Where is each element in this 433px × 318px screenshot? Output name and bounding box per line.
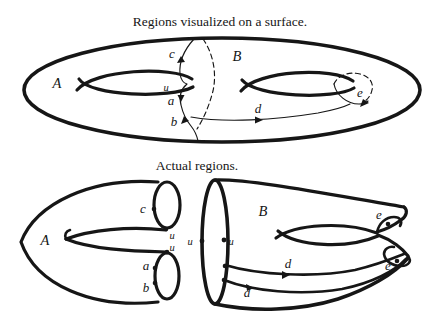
curve-c-arrowhead (177, 56, 185, 63)
loop-e-arrowhead (360, 99, 369, 107)
label-curve-c: c (169, 46, 175, 61)
label-u-left: u (187, 236, 192, 247)
label-region-a: A (52, 75, 62, 91)
dot-u-c-circle (164, 227, 169, 232)
curve-d (191, 104, 350, 120)
piece-a-circle-c (154, 182, 180, 228)
label-piece-a: A (40, 232, 50, 248)
dot-d-lower-start (222, 278, 227, 283)
surface-figure: Regions visualized on a surface. A B c u… (24, 14, 420, 142)
actual-regions-figure: Actual regions. A c u u a b (21, 158, 410, 309)
label-curve-a: a (168, 93, 175, 108)
label-e-top: e (376, 207, 382, 222)
figure-page: Regions visualized on a surface. A B c u… (0, 0, 433, 318)
piece-b-top-edge (215, 180, 404, 207)
piece-b: B u u e e d d (187, 180, 409, 309)
left-handle-lower-arc (79, 79, 193, 94)
dot-u-right (222, 238, 227, 243)
piece-a-circle-ab (155, 253, 179, 299)
topology-diagram: Regions visualized on a surface. A B c u… (0, 0, 433, 318)
label-u-top: u (169, 230, 174, 241)
piece-b-hole-lower-arc (278, 231, 378, 245)
label-arc-a: a (143, 258, 150, 273)
piece-a: A c u u a b (21, 181, 180, 303)
label-d-upper: d (285, 256, 292, 271)
dot-e-bottom (395, 259, 400, 264)
piece-b-bottom-edge (215, 258, 408, 309)
label-u-right: u (228, 236, 233, 247)
piece-b-curve-d-upper (225, 254, 404, 275)
loop-cab-back-dashed (197, 39, 215, 129)
label-e-bottom: e (385, 258, 391, 273)
label-region-b: B (233, 48, 242, 64)
curve-b-arrowhead (181, 116, 189, 124)
dot-a-arc (153, 266, 158, 271)
dot-e-top (386, 222, 391, 227)
curve-a-arrowhead (178, 95, 185, 102)
piece-b-hole-upper-arc (276, 226, 377, 238)
label-curve-e: e (357, 85, 363, 100)
label-curve-b: b (171, 114, 178, 129)
dot-d-upper-start (223, 264, 228, 269)
label-d-lower: d (244, 285, 251, 300)
label-piece-b: B (259, 203, 268, 219)
label-u-bottom: u (169, 242, 174, 253)
dot-c-arc (152, 207, 157, 212)
d-upper-arrowhead (282, 271, 290, 279)
label-point-u: u (163, 82, 168, 93)
label-arc-c: c (140, 201, 146, 216)
piece-a-slit-upper (66, 228, 166, 239)
actual-regions-title: Actual regions. (156, 158, 238, 173)
label-arc-b: b (143, 280, 150, 295)
surface-figure-title: Regions visualized on a surface. (133, 14, 307, 29)
dot-b-arc (153, 281, 158, 286)
curve-d-arrowhead (255, 117, 263, 124)
piece-a-slit-lower (66, 239, 166, 252)
label-curve-d: d (255, 101, 262, 116)
dot-u-left (200, 239, 205, 244)
